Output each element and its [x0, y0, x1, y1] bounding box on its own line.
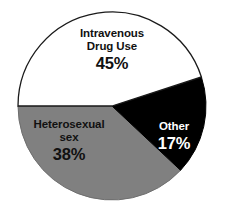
pie-chart-svg — [0, 0, 229, 217]
pie-chart: Intravenous Drug Use 45% Heterosexual se… — [0, 0, 229, 217]
